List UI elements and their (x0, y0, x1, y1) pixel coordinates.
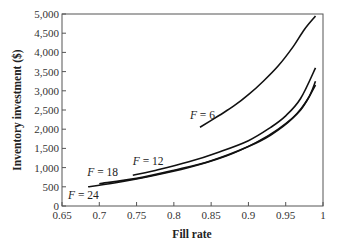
x-tick-label: 0.8 (167, 209, 181, 221)
x-tick-label: 0.7 (92, 209, 106, 221)
y-tick-label: 1,000 (34, 162, 59, 174)
x-tick-label: 0.9 (242, 209, 256, 221)
line-chart: 05001,0001,5002,0002,5003,0003,5004,0004… (0, 0, 345, 248)
series-group (88, 16, 315, 187)
y-tick-label: 4,500 (34, 27, 59, 39)
series-line-f6 (200, 16, 316, 127)
y-tick-label: 3,000 (34, 85, 59, 97)
y-axis: 05001,0001,5002,0002,5003,0003,5004,0004… (34, 8, 66, 212)
x-tick-label: 0.75 (127, 209, 147, 221)
y-tick-label: 5,000 (34, 8, 59, 20)
x-tick-label: 1 (320, 209, 326, 221)
x-tick-label: 0.65 (52, 209, 72, 221)
curve-label: F = 24 (67, 189, 99, 201)
x-axis-label: Fill rate (172, 228, 211, 240)
y-tick-label: 4,000 (34, 46, 59, 58)
curve-label: F = 18 (86, 166, 118, 178)
series-line-f24 (88, 85, 315, 187)
x-axis: 0.650.70.750.80.850.90.951 (52, 202, 325, 221)
y-tick-label: 1,500 (34, 142, 59, 154)
y-tick-label: 3,500 (34, 66, 59, 78)
series-line-f18 (99, 81, 315, 184)
curve-label: F = 12 (132, 155, 164, 167)
x-tick-label: 0.85 (202, 209, 222, 221)
curve-label: F = 6 (189, 109, 215, 121)
y-tick-label: 500 (43, 181, 60, 193)
x-tick-label: 0.95 (276, 209, 296, 221)
y-tick-label: 2,000 (34, 123, 59, 135)
y-axis-label: Inventory investment ($) (11, 49, 24, 171)
y-tick-label: 2,500 (34, 104, 59, 116)
